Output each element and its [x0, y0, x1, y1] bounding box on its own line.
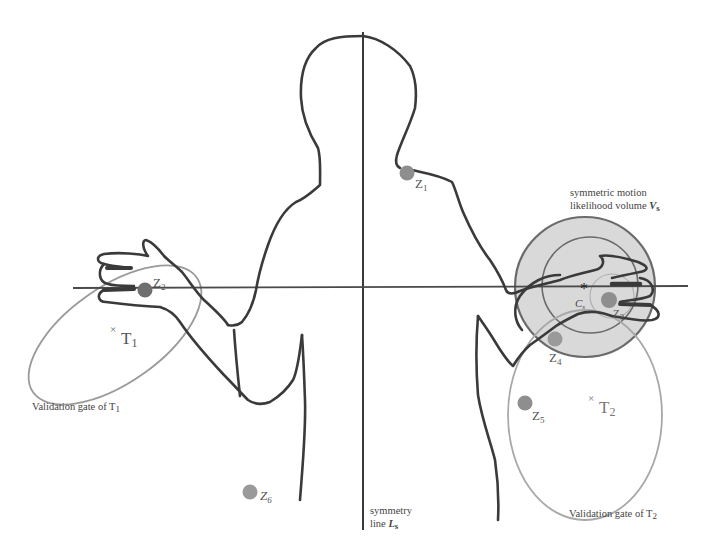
track-t2: × T2	[588, 392, 615, 419]
symmetry-line-caption-2: line Ls	[370, 518, 399, 531]
label-z5: Z5	[532, 408, 545, 425]
measurement-z5	[518, 396, 533, 411]
measurement-z6	[243, 485, 258, 500]
label-t1: T1	[121, 329, 137, 350]
likelihood-caption-2: likelihood volume Vs	[570, 200, 660, 213]
body-symmetry-diagram: Z1 Z2 Z3 Z4 Z5 Z6 × T1 × T2 * Cs Validat…	[0, 0, 714, 556]
track-t1: × T1	[110, 323, 137, 350]
track-marker-icon: ×	[588, 392, 594, 404]
label-z2: Z2	[153, 275, 165, 292]
label-z1: Z1	[415, 176, 427, 193]
symmetry-line-caption-1: symmetry	[370, 505, 413, 516]
measurement-z4	[548, 332, 563, 347]
measurement-z1	[400, 166, 415, 181]
track-marker-icon: ×	[110, 323, 116, 335]
label-z6: Z6	[260, 488, 272, 505]
likelihood-caption-1: symmetric motion	[570, 187, 647, 198]
measurement-z3	[601, 292, 617, 308]
gate1-caption: Validation gate of T1	[32, 401, 120, 414]
measurement-z2	[138, 283, 153, 298]
center-star-icon: *	[580, 280, 588, 297]
label-t2: T2	[599, 398, 615, 419]
